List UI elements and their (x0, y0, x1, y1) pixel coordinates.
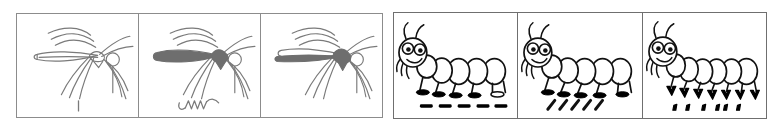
mosquito-panel-group: Mosquito outline, unshaded body, one sho… (16, 13, 383, 118)
mosquito-drawing-2 (139, 14, 260, 117)
caterpillar-mark-3 (672, 104, 740, 110)
figure-root: Mosquito outline, unshaded body, one sho… (0, 0, 772, 129)
caterpillar-panel-1[interactable]: Caterpillar with five segments and five … (394, 13, 517, 118)
mosquito-body-fill-2 (153, 50, 228, 70)
mosquito-drawing-3 (261, 14, 382, 117)
caterpillar-panel-3[interactable]: Caterpillar with six segments, V-shaped … (642, 13, 766, 118)
mosquito-panel-2[interactable]: Mosquito with fully shaded body, squiggl… (138, 14, 260, 117)
mosquito-mark-2 (179, 99, 219, 109)
caterpillar-mark-1 (420, 104, 508, 107)
mosquito-drawing-1 (17, 14, 138, 117)
caterpillar-mark-2 (548, 100, 603, 109)
mosquito-body-fill-3 (275, 49, 351, 71)
caterpillar-drawing-3 (643, 13, 766, 118)
mosquito-panel-3[interactable]: Mosquito with shaded abdomen and outline… (260, 14, 382, 117)
caterpillar-feet-1 (416, 90, 504, 98)
caterpillar-panel-2[interactable]: Caterpillar with five segments and five … (517, 13, 641, 118)
mosquito-panel-1[interactable]: Mosquito outline, unshaded body, one sho… (17, 14, 138, 117)
caterpillar-panel-group: Caterpillar with five segments and five … (393, 12, 767, 119)
caterpillar-drawing-2 (518, 13, 641, 118)
caterpillar-drawing-1 (394, 13, 517, 118)
caterpillar-feet-2 (542, 90, 630, 98)
